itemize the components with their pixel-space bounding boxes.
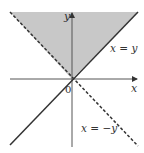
line-x-equals-neg-y-label: x = −y <box>81 122 118 134</box>
y-axis-label: y <box>63 10 71 23</box>
x-axis-label: x <box>131 82 138 95</box>
origin-label: 0 <box>65 84 71 95</box>
diagram-canvas: y x 0 x = y x = −y <box>0 0 144 153</box>
line-x-equals-y-label: x = y <box>110 42 138 54</box>
